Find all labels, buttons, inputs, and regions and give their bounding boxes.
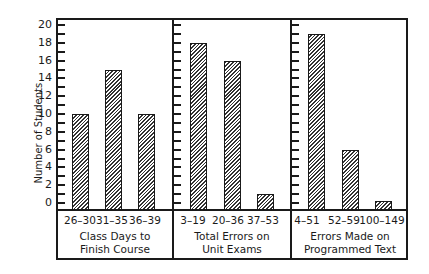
- y-tick: [292, 122, 299, 124]
- y-tick: [174, 184, 181, 186]
- y-tick: [58, 86, 65, 88]
- y-tick: [58, 131, 65, 133]
- y-tick: [292, 69, 299, 71]
- y-tick: [174, 60, 181, 62]
- y-tick: [58, 166, 65, 168]
- y-tick: [292, 193, 299, 195]
- y-tick-label: 8: [32, 125, 52, 138]
- y-tick: [174, 104, 181, 106]
- y-tick: [174, 95, 181, 97]
- y-tick: [292, 158, 299, 160]
- y-tick: [174, 122, 181, 124]
- y-tick: [174, 193, 181, 195]
- bar: [308, 34, 325, 210]
- y-tick: [292, 77, 299, 79]
- y-tick: [292, 86, 299, 88]
- y-tick: [58, 113, 65, 115]
- y-tick: [174, 149, 181, 151]
- y-tick: [58, 193, 65, 195]
- y-tick-label: 12: [32, 89, 52, 102]
- y-tick: [292, 104, 299, 106]
- bar: [257, 194, 274, 210]
- y-tick: [58, 24, 65, 26]
- y-tick: [58, 69, 65, 71]
- category-label: 36–39: [120, 214, 170, 226]
- y-tick: [58, 158, 65, 160]
- bar: [375, 201, 392, 210]
- category-label: 100–149: [357, 214, 407, 226]
- y-tick: [58, 33, 65, 35]
- bar: [190, 43, 207, 210]
- y-tick: [174, 158, 181, 160]
- bar: [342, 150, 359, 210]
- y-tick: [174, 166, 181, 168]
- y-tick: [174, 175, 181, 177]
- y-tick: [58, 51, 65, 53]
- category-label: 37–53: [238, 214, 288, 226]
- bar: [105, 70, 122, 211]
- y-tick: [58, 42, 65, 44]
- y-tick: [174, 86, 181, 88]
- y-tick: [292, 202, 299, 204]
- y-tick: [292, 42, 299, 44]
- y-tick-label: 10: [32, 107, 52, 120]
- y-tick: [174, 140, 181, 142]
- y-tick-label: 0: [32, 196, 52, 209]
- bar: [138, 114, 155, 210]
- y-tick: [292, 24, 299, 26]
- y-tick-label: 2: [32, 178, 52, 191]
- y-tick: [174, 24, 181, 26]
- y-tick: [292, 51, 299, 53]
- y-tick-label: 20: [32, 18, 52, 31]
- y-tick-label: 6: [32, 143, 52, 156]
- y-tick: [174, 69, 181, 71]
- y-tick: [292, 60, 299, 62]
- y-tick: [292, 131, 299, 133]
- y-tick: [292, 149, 299, 151]
- y-tick: [58, 95, 65, 97]
- y-tick: [58, 184, 65, 186]
- y-tick: [58, 77, 65, 79]
- panel-title: Finish Course: [58, 242, 172, 257]
- y-tick-label: 14: [32, 71, 52, 84]
- y-tick: [58, 140, 65, 142]
- y-tick: [58, 60, 65, 62]
- y-tick: [174, 42, 181, 44]
- y-tick: [292, 175, 299, 177]
- y-tick: [292, 95, 299, 97]
- y-tick: [174, 202, 181, 204]
- y-tick: [292, 33, 299, 35]
- y-tick-label: 4: [32, 160, 52, 173]
- y-tick-label: 18: [32, 36, 52, 49]
- y-tick: [174, 77, 181, 79]
- y-tick: [174, 113, 181, 115]
- y-tick: [58, 104, 65, 106]
- panel-title: Unit Exams: [174, 242, 290, 257]
- y-tick: [58, 175, 65, 177]
- bar: [72, 114, 89, 210]
- y-tick-label: 16: [32, 54, 52, 67]
- y-tick: [58, 202, 65, 204]
- y-tick: [58, 122, 65, 124]
- y-tick: [292, 184, 299, 186]
- y-tick: [58, 149, 65, 151]
- y-tick: [292, 113, 299, 115]
- y-tick: [174, 33, 181, 35]
- y-tick: [174, 51, 181, 53]
- y-tick: [174, 131, 181, 133]
- bar: [224, 61, 241, 210]
- y-tick: [292, 140, 299, 142]
- y-tick: [292, 166, 299, 168]
- panel-title: Programmed Text: [292, 242, 408, 257]
